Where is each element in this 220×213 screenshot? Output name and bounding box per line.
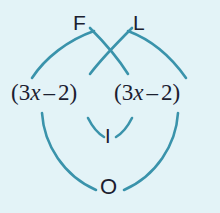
foil-label-inner: I bbox=[105, 126, 111, 146]
foil-label-first: F bbox=[73, 12, 86, 33]
left-variable: x bbox=[30, 80, 40, 105]
right-variable: x bbox=[133, 80, 143, 105]
left-coefficient: 3 bbox=[19, 80, 31, 105]
right-open-paren: ( bbox=[114, 80, 122, 105]
left-operator: – bbox=[40, 80, 58, 105]
inner-arc-lower-left bbox=[88, 118, 104, 137]
inner-arc-lower-right bbox=[116, 118, 132, 137]
right-close-paren: ) bbox=[172, 80, 180, 105]
right-binomial: (3x–2) bbox=[114, 80, 180, 106]
right-coefficient: 3 bbox=[122, 80, 134, 105]
foil-label-outer: O bbox=[100, 176, 118, 198]
left-constant: 2 bbox=[58, 80, 70, 105]
outer-arc-lower-left bbox=[42, 113, 96, 190]
left-close-paren: ) bbox=[69, 80, 77, 105]
last-arc-right-segment bbox=[128, 31, 186, 78]
foil-label-last: L bbox=[133, 12, 145, 33]
outer-arc-left-segment bbox=[32, 31, 94, 78]
foil-method-diagram: F L I O (3x–2) (3x–2) bbox=[0, 0, 220, 213]
left-binomial: (3x–2) bbox=[11, 80, 77, 106]
right-constant: 2 bbox=[161, 80, 173, 105]
outer-arc-lower-right bbox=[124, 113, 178, 190]
right-operator: – bbox=[143, 80, 161, 105]
left-open-paren: ( bbox=[11, 80, 19, 105]
